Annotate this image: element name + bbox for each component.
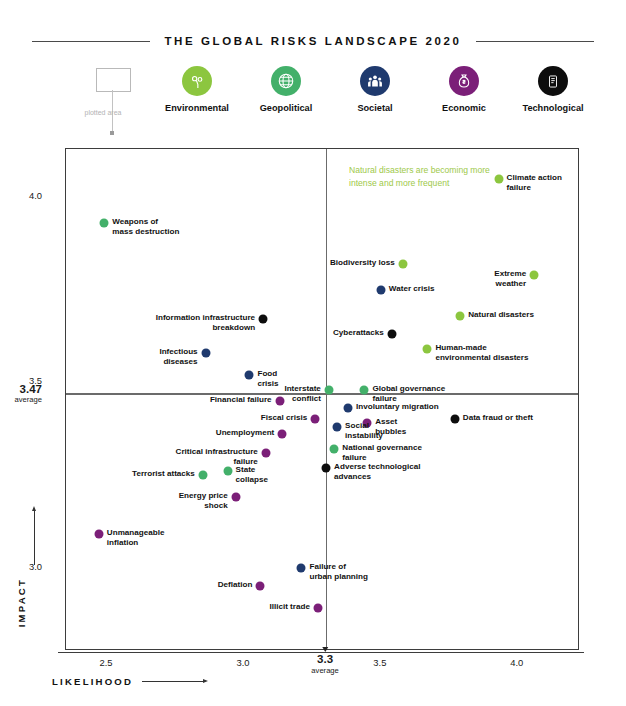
data-point-label: State collapse	[236, 465, 268, 485]
data-point-marker	[333, 422, 342, 431]
data-point-marker	[223, 467, 232, 476]
legend-item-label: Economic	[442, 103, 486, 113]
page-title: THE GLOBAL RISKS LANDSCAPE 2020	[164, 35, 461, 47]
data-point-label: Food crisis	[257, 369, 278, 389]
data-point-marker	[344, 404, 353, 413]
data-point-label: Terrorist attacks	[132, 469, 195, 479]
device-icon	[538, 66, 568, 96]
data-point-label: Biodiversity loss	[330, 258, 395, 268]
legend-item-label: Geopolitical	[260, 103, 313, 113]
data-point-marker	[231, 493, 240, 502]
data-point-label: Information infrastructure breakdown	[156, 313, 255, 333]
y-average-value: 3.47	[15, 383, 42, 395]
x-average-value: 3.3	[311, 653, 338, 666]
data-point-marker	[100, 219, 109, 228]
data-point-marker	[494, 174, 503, 183]
money-bag-icon	[449, 66, 479, 96]
data-point-marker	[423, 345, 432, 354]
data-point-marker	[297, 563, 306, 572]
data-point-marker	[256, 582, 265, 591]
data-point-label: Illicit trade	[269, 602, 309, 612]
data-point-label: National governance failure	[342, 443, 422, 463]
data-point-marker	[259, 315, 268, 324]
y-axis-tick: 3.0	[29, 561, 42, 572]
data-point-label: Involuntary migration	[356, 402, 439, 412]
leaf-icon	[182, 66, 212, 96]
plotted-area-box	[96, 68, 131, 92]
data-point-marker	[261, 448, 270, 457]
legend-item-label: Technological	[522, 103, 583, 113]
data-point-marker	[245, 370, 254, 379]
x-axis-tick: 4.0	[510, 657, 523, 668]
x-axis-tick: 3.0	[236, 657, 249, 668]
data-point-marker	[450, 415, 459, 424]
data-point-label: Energy price shock	[179, 491, 228, 511]
data-point-marker	[322, 463, 331, 472]
legend-item-label: Societal	[357, 103, 392, 113]
data-point-marker	[94, 530, 103, 539]
data-point-marker	[456, 311, 465, 320]
x-axis-average-marker: 3.3average	[311, 653, 338, 675]
data-point-label: Social instability	[345, 421, 383, 441]
data-point-marker	[275, 396, 284, 405]
data-point-label: Critical infrastructure failure	[176, 447, 258, 467]
legend-item-economic[interactable]: Economic	[422, 66, 506, 113]
data-point-marker	[530, 270, 539, 279]
category-legend: EnvironmentalGeopoliticalSocietalEconomi…	[155, 66, 595, 124]
chart-plot-area: Natural disasters are becoming more inte…	[65, 148, 579, 650]
data-point-label: Weapons of mass destruction	[112, 217, 179, 237]
chart-annotation: Natural disasters are becoming more inte…	[349, 164, 499, 189]
average-impact-line	[66, 393, 578, 394]
people-icon	[360, 66, 390, 96]
x-average-caption: average	[311, 666, 338, 675]
callout-tip	[110, 131, 114, 135]
data-point-marker	[313, 604, 322, 613]
data-point-marker	[387, 330, 396, 339]
likelihood-axis-arrow	[142, 681, 204, 682]
y-axis-label: IMPACT	[16, 578, 27, 627]
x-axis-label-row: LIKELIHOOD	[52, 676, 204, 687]
data-point-label: Global governance failure	[372, 384, 445, 404]
x-axis-tick: 3.5	[373, 657, 386, 668]
data-point-label: Data fraud or theft	[463, 413, 533, 423]
y-axis-tick: 4.0	[29, 190, 42, 201]
data-point-label: Unmanageable inflation	[107, 528, 165, 548]
data-point-marker	[330, 445, 339, 454]
legend-item-geopolitical[interactable]: Geopolitical	[244, 66, 328, 113]
data-point-marker	[360, 385, 369, 394]
data-point-label: Cyberattacks	[333, 328, 384, 338]
x-axis-label: LIKELIHOOD	[52, 676, 133, 687]
data-point-marker	[398, 259, 407, 268]
data-point-label: Fiscal crisis	[261, 413, 307, 423]
y-axis-average-marker: 3.47average	[15, 383, 42, 404]
legend-item-technological[interactable]: Technological	[511, 66, 595, 113]
legend-item-environmental[interactable]: Environmental	[155, 66, 239, 113]
title-rule-left	[32, 41, 150, 42]
title-rule-right	[476, 41, 594, 42]
data-point-label: Financial failure	[210, 395, 272, 405]
data-point-marker	[201, 348, 210, 357]
impact-axis-arrow	[34, 510, 35, 565]
y-average-caption: average	[15, 395, 42, 404]
legend-item-label: Environmental	[165, 103, 229, 113]
data-point-marker	[376, 285, 385, 294]
data-point-label: Infectious diseases	[159, 347, 197, 367]
data-point-label: Adverse technological advances	[334, 462, 420, 482]
data-point-marker	[324, 385, 333, 394]
data-point-label: Climate action failure	[507, 173, 562, 193]
data-point-marker	[198, 470, 207, 479]
data-point-label: Human-made environmental disasters	[435, 343, 528, 363]
data-point-label: Deflation	[218, 580, 253, 590]
data-point-marker	[278, 430, 287, 439]
page-header: THE GLOBAL RISKS LANDSCAPE 2020	[0, 28, 626, 54]
data-point-label: Interstate conflict	[284, 384, 320, 404]
legend-item-societal[interactable]: Societal	[333, 66, 417, 113]
data-point-marker	[311, 415, 320, 424]
x-axis-tick: 2.5	[100, 657, 113, 668]
data-point-label: Failure of urban planning	[309, 562, 367, 582]
data-point-label: Natural disasters	[468, 310, 534, 320]
x-axis-line	[58, 652, 584, 653]
data-point-label: Water crisis	[389, 284, 435, 294]
globe-icon	[271, 66, 301, 96]
data-point-label: Extreme weather	[494, 269, 526, 289]
